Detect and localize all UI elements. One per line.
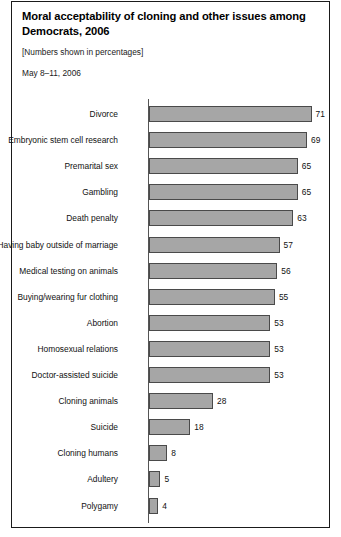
bar	[149, 158, 298, 174]
bar-value-label: 65	[302, 187, 311, 197]
bar-row: Cloning humans8	[12, 445, 329, 461]
bar-category-label: Premarital sex	[64, 161, 118, 171]
bar-category-label: Divorce	[90, 109, 118, 119]
bar	[149, 106, 312, 122]
bar-value-label: 56	[281, 266, 290, 276]
bar	[149, 315, 270, 331]
bar	[149, 210, 293, 226]
bar-row: Death penalty63	[12, 210, 329, 226]
bar-value-label: 55	[279, 292, 288, 302]
bar-category-label: Gambling	[82, 187, 118, 197]
bar-category-label: Suicide	[91, 422, 118, 432]
bar	[149, 367, 270, 383]
bar-category-label: Buying/wearing fur clothing	[17, 292, 118, 302]
bar-row: Buying/wearing fur clothing55	[12, 289, 329, 305]
bar	[149, 471, 160, 487]
bar-row: Premarital sex65	[12, 158, 329, 174]
bar-category-label: Polygamy	[81, 501, 118, 511]
bar-value-label: 65	[302, 161, 311, 171]
bar	[149, 341, 270, 357]
bar-category-label: Adultery	[87, 474, 118, 484]
bar-value-label: 4	[162, 501, 167, 511]
bar	[149, 445, 167, 461]
bar-category-label: Death penalty	[66, 213, 118, 223]
bar-category-label: Doctor-assisted suicide	[31, 370, 118, 380]
bar-row: Gambling65	[12, 184, 329, 200]
bar-category-label: Cloning animals	[58, 396, 118, 406]
bar-value-label: 63	[297, 213, 306, 223]
bar	[149, 263, 277, 279]
bar	[149, 132, 307, 148]
bar-value-label: 71	[316, 109, 325, 119]
bar-row: Suicide18	[12, 419, 329, 435]
bar-value-label: 18	[194, 422, 203, 432]
bar-value-label: 57	[284, 240, 293, 250]
bar-chart-plot-area: Divorce71Embryonic stem cell research69P…	[12, 2, 329, 527]
bar-row: Embryonic stem cell research69	[12, 132, 329, 148]
bar	[149, 184, 298, 200]
bar-category-label: Medical testing on animals	[19, 266, 118, 276]
bar-value-label: 8	[171, 448, 176, 458]
bar-category-label: Abortion	[87, 318, 118, 328]
chart-frame: Moral acceptability of cloning and other…	[11, 1, 330, 528]
bar-row: Adultery5	[12, 471, 329, 487]
bar-value-label: 5	[164, 474, 169, 484]
bar	[149, 289, 275, 305]
bar-row: Divorce71	[12, 106, 329, 122]
bar-category-label: Cloning humans	[57, 448, 118, 458]
bar-row: Medical testing on animals56	[12, 263, 329, 279]
bar-value-label: 69	[311, 135, 320, 145]
bar	[149, 237, 280, 253]
bar-category-label: Having baby outside of marriage	[0, 240, 118, 250]
bar-value-label: 53	[274, 370, 283, 380]
bar-row: Polygamy4	[12, 498, 329, 514]
bar-value-label: 28	[217, 396, 226, 406]
bar	[149, 393, 213, 409]
chart-container: Moral acceptability of cloning and other…	[12, 2, 329, 527]
bar-category-label: Homosexual relations	[37, 344, 118, 354]
bar-category-label: Embryonic stem cell research	[8, 135, 118, 145]
bar	[149, 498, 158, 514]
bar-row: Doctor-assisted suicide53	[12, 367, 329, 383]
bar-row: Abortion53	[12, 315, 329, 331]
bar	[149, 419, 190, 435]
bar-value-label: 53	[274, 344, 283, 354]
bar-value-label: 53	[274, 318, 283, 328]
bar-row: Homosexual relations53	[12, 341, 329, 357]
bar-row: Having baby outside of marriage57	[12, 237, 329, 253]
bar-row: Cloning animals28	[12, 393, 329, 409]
